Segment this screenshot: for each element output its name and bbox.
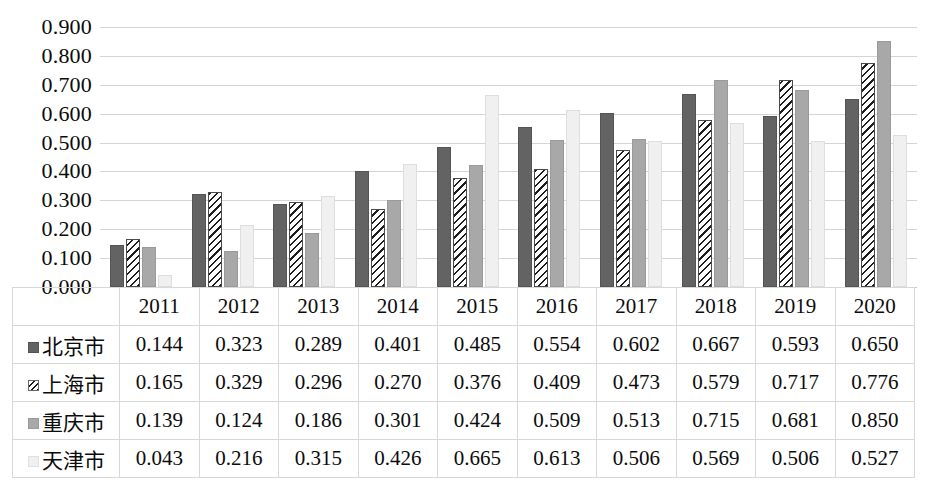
table-cell-value: 0.424	[438, 402, 518, 440]
y-axis-tick-label: 0.400	[42, 160, 93, 182]
bar	[861, 63, 875, 287]
table-cell-value: 0.717	[756, 364, 836, 402]
bar	[811, 141, 825, 287]
legend-entry: 上海市	[13, 364, 120, 402]
table-cell-value: 0.296	[279, 364, 359, 402]
table-cell-value: 0.554	[517, 326, 597, 364]
table-cell-value: 0.776	[835, 364, 915, 402]
y-axis-tick-label: 0.900	[42, 16, 93, 38]
table-cell-value: 0.270	[358, 364, 438, 402]
bar-group	[672, 0, 754, 287]
y-axis-tick-labels: 0.0000.1000.2000.3000.4000.5000.6000.700…	[14, 0, 92, 300]
legend-entry: 北京市	[13, 326, 120, 364]
bar	[240, 225, 254, 287]
bar	[550, 140, 564, 287]
bar	[142, 247, 156, 287]
bar	[730, 123, 744, 287]
table-column-header-year: 2012	[199, 288, 279, 326]
bar	[534, 169, 548, 287]
table-cell-value: 0.301	[358, 402, 438, 440]
bar	[698, 120, 712, 287]
y-axis-tick-label: 0.200	[42, 218, 93, 240]
plot-canvas	[100, 0, 917, 300]
legend-swatch-icon	[28, 342, 39, 353]
bar	[321, 196, 335, 287]
bar	[126, 239, 140, 287]
table-cell-value: 0.667	[676, 326, 756, 364]
table-cell-value: 0.401	[358, 326, 438, 364]
bar	[485, 95, 499, 287]
bar	[371, 209, 385, 287]
bar	[763, 116, 777, 287]
bar	[779, 80, 793, 287]
bar	[877, 41, 891, 287]
table-cell-value: 0.473	[597, 364, 677, 402]
table-cell-value: 0.144	[120, 326, 200, 364]
table-cell-value: 0.665	[438, 440, 518, 478]
legend-swatch-icon	[28, 380, 39, 391]
table-cell-value: 0.602	[597, 326, 677, 364]
bar	[648, 141, 662, 287]
legend-series-label: 上海市	[42, 368, 105, 398]
bar	[110, 245, 124, 287]
table-column-header-year: 2020	[835, 288, 915, 326]
bar-group	[263, 0, 345, 287]
bar	[616, 150, 630, 287]
bar	[437, 147, 451, 287]
bar	[158, 275, 172, 287]
bar	[518, 127, 532, 287]
table-cell-value: 0.139	[120, 402, 200, 440]
table-column-header-year: 2018	[676, 288, 756, 326]
table-cell-value: 0.681	[756, 402, 836, 440]
table-corner-cell	[13, 288, 120, 326]
table-cell-value: 0.613	[517, 440, 597, 478]
y-axis-tick-label: 0.700	[42, 74, 93, 96]
bar	[566, 110, 580, 287]
table-column-header-year: 2014	[358, 288, 438, 326]
bar	[845, 99, 859, 287]
y-axis-tick-label: 0.100	[42, 247, 93, 269]
table-column-header-year: 2017	[597, 288, 677, 326]
table-cell-value: 0.513	[597, 402, 677, 440]
table-column-header-year: 2015	[438, 288, 518, 326]
legend-swatch-icon	[28, 418, 39, 429]
table-cell-value: 0.165	[120, 364, 200, 402]
bar	[795, 90, 809, 287]
table-cell-value: 0.569	[676, 440, 756, 478]
bar	[453, 178, 467, 287]
table-cell-value: 0.329	[199, 364, 279, 402]
bar	[682, 94, 696, 287]
legend-series-label: 天津市	[42, 444, 105, 474]
data-table-container: 2011201220132014201520162017201820192020…	[12, 287, 915, 478]
bar-group	[835, 0, 917, 287]
bar	[224, 251, 238, 287]
bar	[600, 113, 614, 287]
table-row: 天津市0.0430.2160.3150.4260.6650.6130.5060.…	[13, 440, 915, 478]
bar	[192, 194, 206, 287]
table-cell-value: 0.485	[438, 326, 518, 364]
bar	[469, 165, 483, 287]
table-cell-value: 0.409	[517, 364, 597, 402]
table-cell-value: 0.315	[279, 440, 359, 478]
table-cell-value: 0.323	[199, 326, 279, 364]
bar	[714, 80, 728, 287]
table-cell-value: 0.216	[199, 440, 279, 478]
y-axis-tick-label: 0.300	[42, 189, 93, 211]
bar-group	[345, 0, 427, 287]
table-cell-value: 0.509	[517, 402, 597, 440]
table-cell-value: 0.593	[756, 326, 836, 364]
data-table: 2011201220132014201520162017201820192020…	[12, 287, 915, 478]
bar-group	[590, 0, 672, 287]
legend-swatch-icon	[28, 456, 39, 467]
table-row: 上海市0.1650.3290.2960.2700.3760.4090.4730.…	[13, 364, 915, 402]
y-axis-tick-label: 0.800	[42, 45, 93, 67]
table-cell-value: 0.650	[835, 326, 915, 364]
table-cell-value: 0.527	[835, 440, 915, 478]
table-cell-value: 0.850	[835, 402, 915, 440]
bar	[305, 233, 319, 287]
table-column-header-year: 2011	[120, 288, 200, 326]
table-cell-value: 0.043	[120, 440, 200, 478]
bar-groups	[100, 0, 917, 300]
bar-group	[427, 0, 509, 287]
table-cell-value: 0.376	[438, 364, 518, 402]
